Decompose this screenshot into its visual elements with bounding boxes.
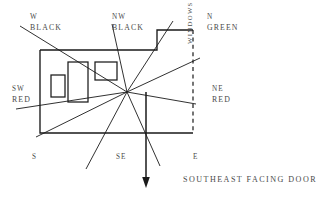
interior-furniture xyxy=(51,62,117,102)
sector-line-nw-sw xyxy=(20,26,127,92)
sector-color-sw: RED xyxy=(12,94,31,105)
sector-color-ne: RED xyxy=(212,94,231,105)
sector-label-nw: NW BLACK xyxy=(112,12,144,34)
sector-direction-n: N xyxy=(207,12,239,22)
arrow-head-icon xyxy=(142,177,150,188)
sector-direction-sw: SW xyxy=(12,84,31,94)
sector-direction-nw: NW xyxy=(112,12,144,22)
windows-label: WINDOWS xyxy=(186,1,193,44)
radiating-sector-lines xyxy=(16,21,200,169)
edge-label-e: E xyxy=(193,153,198,161)
sector-line-ne-diag xyxy=(127,92,196,104)
sector-color-w: BLACK xyxy=(30,22,62,33)
sector-direction-w: W xyxy=(30,12,62,22)
sector-line-se-diag xyxy=(112,24,127,92)
sector-label-w: W BLACK xyxy=(30,12,62,34)
sector-label-ne: NE RED xyxy=(212,84,231,106)
furniture-small-left xyxy=(51,75,65,97)
sector-label-sw: SW RED xyxy=(12,84,31,106)
edge-label-se: SE xyxy=(116,153,126,161)
furniture-tall-middle xyxy=(68,62,88,102)
diagram-canvas: W BLACK NW BLACK N GREEN SW RED NE RED S… xyxy=(0,0,316,197)
sector-color-n: GREEN xyxy=(207,22,239,33)
sector-line-n-diag xyxy=(127,92,160,166)
edge-label-s: S xyxy=(32,153,37,161)
figure-caption: SOUTHEAST FACING DOOR xyxy=(183,175,316,184)
sector-label-n: N GREEN xyxy=(207,12,239,34)
sector-direction-ne: NE xyxy=(212,84,231,94)
furniture-square-right xyxy=(95,62,117,80)
sector-color-nw: BLACK xyxy=(112,22,144,33)
